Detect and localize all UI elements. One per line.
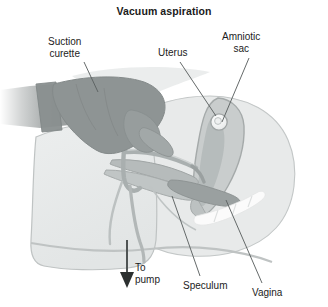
label-speculum: Speculum xyxy=(183,280,227,292)
label-to-pump-line2: pump xyxy=(135,274,160,285)
label-amniotic-sac-line2: sac xyxy=(233,43,249,54)
label-suction-curette-line1: Suction xyxy=(48,36,81,47)
to-pump-arrow-head xyxy=(120,272,134,288)
label-amniotic-sac: Amniotic sac xyxy=(222,31,260,54)
label-vagina: Vagina xyxy=(252,287,282,299)
label-amniotic-sac-line1: Amniotic xyxy=(222,31,260,42)
label-suction-curette: Suction curette xyxy=(48,36,81,59)
label-vagina-text: Vagina xyxy=(252,287,282,298)
illustration-page: Vacuum aspiration xyxy=(0,0,328,307)
label-to-pump-line1: To xyxy=(135,262,146,273)
label-to-pump: To pump xyxy=(135,262,160,285)
label-uterus: Uterus xyxy=(158,47,187,59)
label-suction-curette-line2: curette xyxy=(49,48,80,59)
label-uterus-text: Uterus xyxy=(158,47,187,58)
label-speculum-text: Speculum xyxy=(183,280,227,291)
amniotic-sac-inner xyxy=(215,118,222,125)
